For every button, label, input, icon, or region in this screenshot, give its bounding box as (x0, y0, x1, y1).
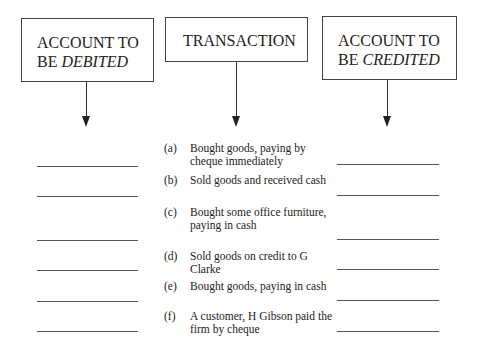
transaction-label: (c) (164, 206, 177, 219)
debit-answer-blank-e[interactable] (37, 301, 138, 302)
transaction-text: Sold goods on credit to G Clarke (190, 250, 340, 276)
credit-answer-blank-f[interactable] (337, 331, 439, 332)
transaction-text: Sold goods and received cash (190, 174, 340, 187)
debit-arrow-down-icon (82, 116, 90, 127)
account-to-be-debited-box: ACCOUNT TO BE DEBITED (21, 18, 154, 82)
transaction-text: Bought some office furniture, paying in … (190, 206, 340, 232)
transaction-box: TRANSACTION (165, 17, 308, 62)
debit-box-line1: ACCOUNT TO (37, 33, 139, 52)
debit-answer-blank-b[interactable] (37, 196, 138, 197)
credit-answer-blank-a[interactable] (337, 164, 439, 165)
transaction-box-label: TRANSACTION (183, 31, 296, 50)
credit-answer-blank-e[interactable] (337, 300, 439, 301)
debit-arrow-shaft (86, 82, 87, 118)
transaction-text: Bought goods, paying in cash (190, 280, 340, 293)
transaction-label: (a) (164, 142, 177, 155)
transaction-label: (f) (164, 310, 176, 323)
transaction-arrow-shaft (236, 62, 237, 118)
transaction-label: (e) (164, 280, 177, 293)
credit-box-line2: BE CREDITED (338, 50, 440, 69)
debit-answer-blank-f[interactable] (37, 331, 138, 332)
debit-answer-blank-d[interactable] (37, 270, 138, 271)
debited-emphasis: DEBITED (61, 53, 128, 70)
credit-answer-blank-b[interactable] (337, 195, 439, 196)
credit-arrow-shaft (387, 80, 388, 118)
account-to-be-credited-box: ACCOUNT TO BE CREDITED (322, 16, 457, 80)
credit-box-line1: ACCOUNT TO (338, 31, 440, 50)
debit-box-line2: BE DEBITED (37, 52, 139, 71)
transaction-text: A customer, H Gibson paid the firm by ch… (190, 310, 340, 336)
transaction-arrow-down-icon (232, 116, 240, 127)
transaction-text: Bought goods, paying by cheque immediate… (190, 142, 340, 168)
credit-arrow-down-icon (383, 116, 391, 127)
transaction-label: (b) (164, 174, 177, 187)
credited-emphasis: CREDITED (362, 51, 439, 68)
debit-answer-blank-c[interactable] (37, 240, 138, 241)
debit-answer-blank-a[interactable] (37, 166, 138, 167)
transaction-label: (d) (164, 250, 177, 263)
credit-answer-blank-c[interactable] (337, 239, 439, 240)
credit-answer-blank-d[interactable] (337, 269, 439, 270)
